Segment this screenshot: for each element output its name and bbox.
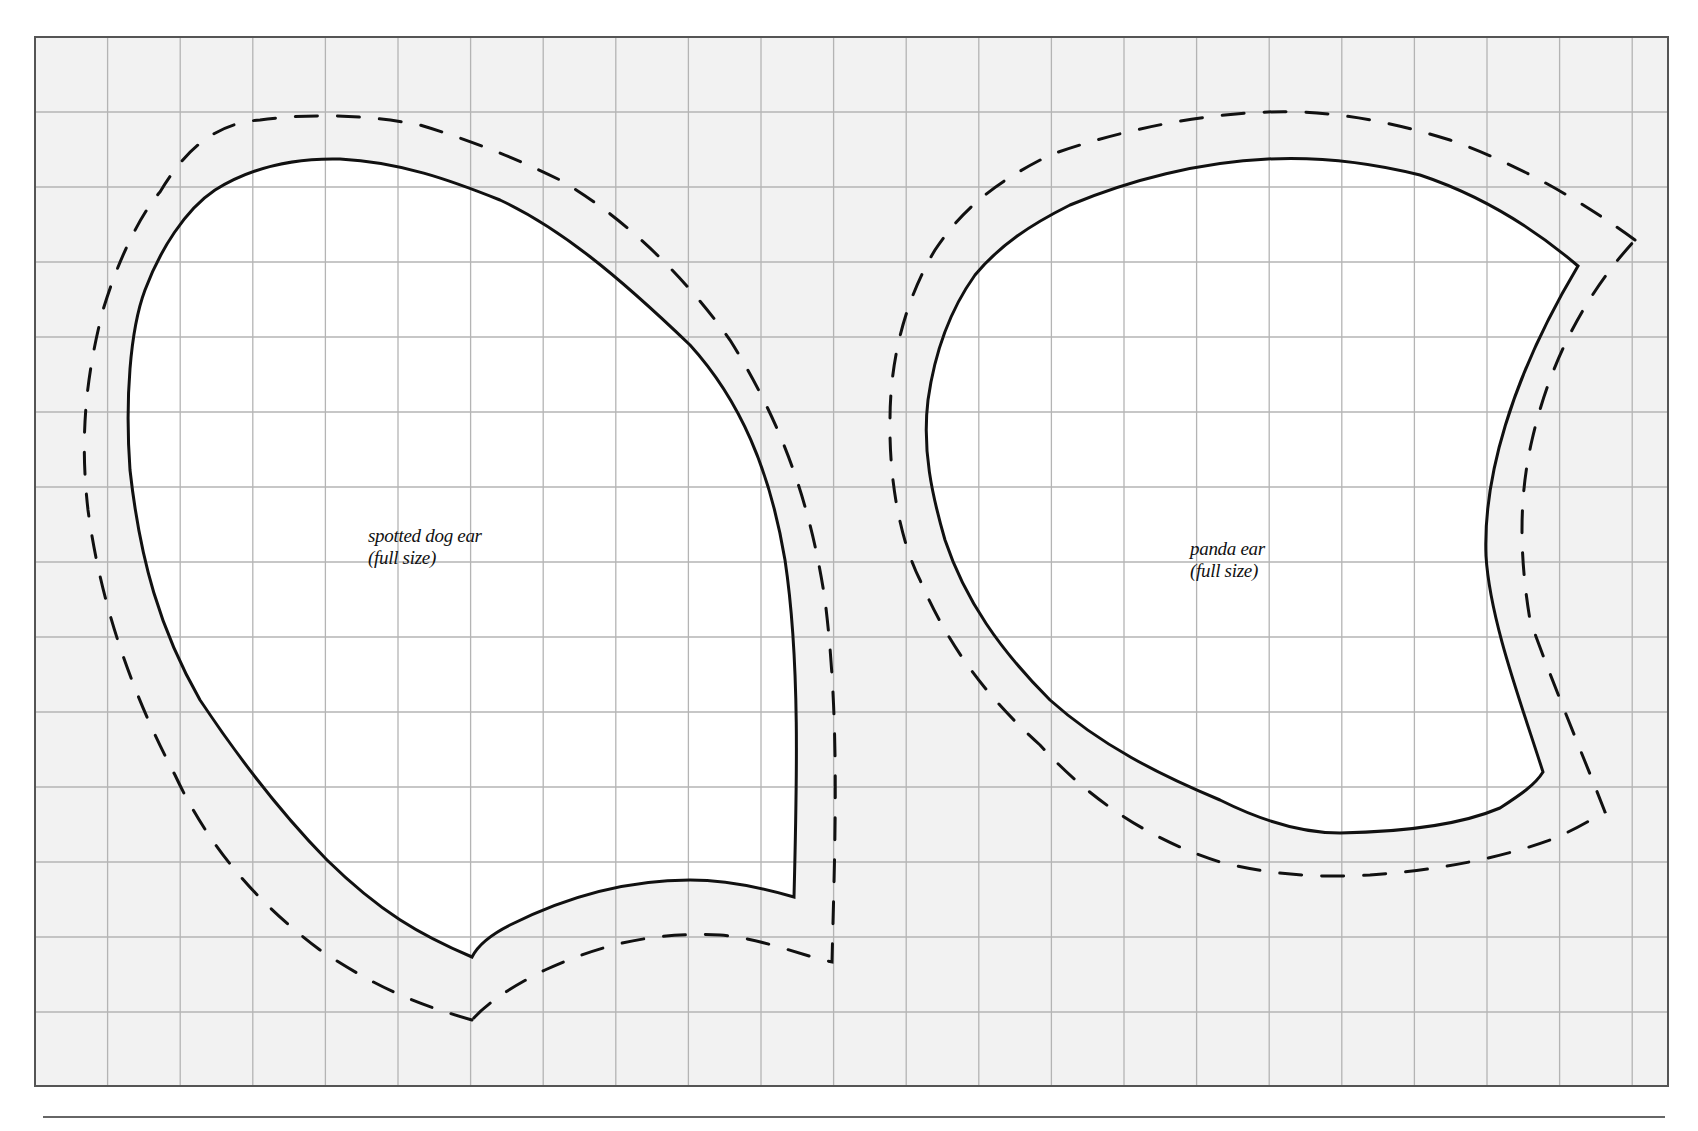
spotted-dog-ear-label-title: spotted dog ear [368, 525, 482, 547]
panda-ear-label-size: (full size) [1190, 560, 1265, 582]
panda-ear-label: panda ear (full size) [1190, 538, 1265, 582]
spotted-dog-ear-label: spotted dog ear (full size) [368, 525, 482, 569]
pattern-sheet [0, 0, 1698, 1131]
spotted-dog-ear-label-size: (full size) [368, 547, 482, 569]
panda-ear-label-title: panda ear [1190, 538, 1265, 560]
